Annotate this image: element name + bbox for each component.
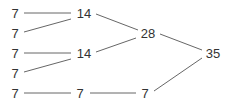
edge-a2-b1 (24, 19, 71, 32)
node-a2: 7 (11, 27, 18, 40)
node-b1: 14 (77, 7, 91, 20)
tree-edges (0, 0, 233, 102)
edge-a4-b2 (24, 59, 71, 72)
node-c2: 7 (141, 87, 148, 100)
edge-b1-c1 (96, 14, 138, 30)
node-a3: 7 (11, 47, 18, 60)
node-c1: 28 (141, 27, 155, 40)
edge-b2-c1 (96, 38, 136, 52)
node-d1: 35 (206, 47, 220, 60)
node-a4: 7 (11, 67, 18, 80)
edge-c2-d1 (154, 58, 202, 91)
node-a1: 7 (11, 7, 18, 20)
edge-c1-d1 (160, 34, 202, 50)
node-a5: 7 (11, 87, 18, 100)
node-b3: 7 (76, 87, 83, 100)
node-b2: 14 (77, 47, 91, 60)
